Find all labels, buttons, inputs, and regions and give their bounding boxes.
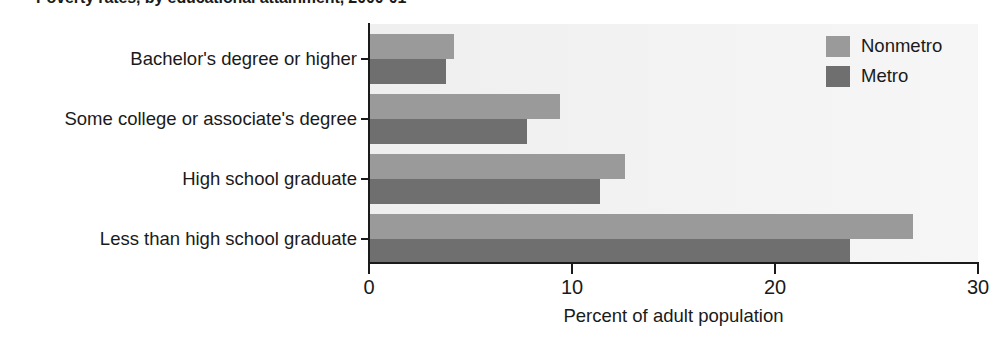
- bar-nonmetro-0: [369, 34, 454, 59]
- chart-legend: Nonmetro Metro: [826, 31, 942, 91]
- bar-nonmetro-1: [369, 94, 560, 119]
- legend-swatch-metro: [826, 66, 850, 87]
- x-axis-tick-20: [774, 264, 776, 274]
- bar-metro-3: [369, 239, 850, 264]
- y-axis-line: [368, 23, 370, 263]
- chart-figure: Poverty rates, by educational attainment…: [0, 0, 995, 339]
- legend-label-nonmetro: Nonmetro: [861, 35, 942, 57]
- x-axis-tick-30: [977, 264, 979, 274]
- x-axis-tick-label-0: 0: [363, 276, 374, 299]
- y-axis-label-3: Less than high school graduate: [100, 228, 357, 250]
- x-axis-tick-label-20: 20: [764, 276, 786, 299]
- y-axis-label-1: Some college or associate's degree: [64, 108, 357, 130]
- chart-title: Poverty rates, by educational attainment…: [36, 0, 406, 7]
- x-axis-tick-label-30: 30: [967, 276, 989, 299]
- bar-metro-2: [369, 179, 600, 204]
- bar-metro-1: [369, 119, 527, 144]
- x-axis-title: Percent of adult population: [369, 305, 978, 327]
- x-axis-tick-0: [368, 264, 370, 274]
- legend-item-nonmetro: Nonmetro: [826, 31, 942, 61]
- x-axis-tick-label-10: 10: [561, 276, 583, 299]
- x-axis-line: [368, 262, 979, 264]
- bar-metro-0: [369, 59, 446, 84]
- y-axis-label-2: High school graduate: [182, 168, 357, 190]
- bar-nonmetro-3: [369, 214, 913, 239]
- legend-item-metro: Metro: [826, 61, 942, 91]
- legend-swatch-nonmetro: [826, 36, 850, 57]
- bar-nonmetro-2: [369, 154, 625, 179]
- legend-label-metro: Metro: [861, 65, 908, 87]
- x-axis-tick-10: [571, 264, 573, 274]
- y-axis-label-0: Bachelor's degree or higher: [130, 48, 357, 70]
